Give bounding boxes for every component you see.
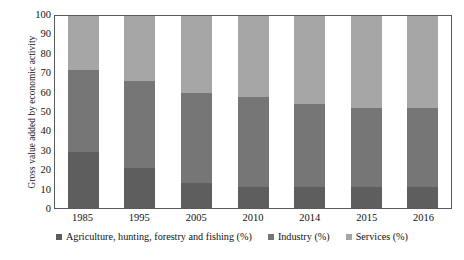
x-axis-tick-1995: 1995	[111, 210, 168, 228]
x-axis-tick-1985: 1985	[54, 210, 111, 228]
bar-slot-2010	[225, 16, 282, 208]
bar-segment[interactable]	[68, 70, 99, 153]
bar-segment[interactable]	[181, 16, 212, 93]
y-axis-tick-40: 40	[18, 126, 51, 136]
legend-label: Agriculture, hunting, forestry and fishi…	[66, 231, 252, 242]
y-axis-tick-30: 30	[18, 146, 51, 156]
stacked-bar-2005[interactable]	[181, 16, 212, 208]
y-axis-tick-50: 50	[18, 107, 51, 117]
bar-segment[interactable]	[238, 16, 269, 97]
bar-segment[interactable]	[407, 16, 438, 108]
bar-slot-2005	[168, 16, 225, 208]
legend-swatch-icon	[268, 234, 274, 240]
plot-area	[54, 15, 452, 209]
bar-slot-2016	[394, 16, 451, 208]
legend-label: Services (%)	[356, 231, 408, 242]
y-axis-tick-70: 70	[18, 68, 51, 78]
legend-swatch-icon	[56, 234, 62, 240]
bar-segment[interactable]	[407, 108, 438, 187]
bar-segment[interactable]	[181, 183, 212, 208]
bar-segment[interactable]	[294, 187, 325, 208]
legend-item-0[interactable]: Agriculture, hunting, forestry and fishi…	[56, 231, 252, 242]
bar-segment[interactable]	[124, 16, 155, 81]
x-axis-tick-2014: 2014	[281, 210, 338, 228]
bar-segment[interactable]	[238, 187, 269, 208]
bar-segment[interactable]	[294, 104, 325, 187]
bar-slot-1985	[55, 16, 112, 208]
x-axis-tick-2010: 2010	[225, 210, 282, 228]
y-axis-tick-100: 100	[18, 10, 51, 20]
stacked-bar-2010[interactable]	[238, 16, 269, 208]
stacked-bar-1995[interactable]	[124, 16, 155, 208]
stacked-bar-2016[interactable]	[407, 16, 438, 208]
stacked-bar-2015[interactable]	[351, 16, 382, 208]
bar-slot-2014	[281, 16, 338, 208]
bar-segment[interactable]	[68, 16, 99, 70]
y-axis-tick-10: 10	[18, 185, 51, 195]
bar-slot-2015	[338, 16, 395, 208]
x-axis-tick-2015: 2015	[338, 210, 395, 228]
bar-slot-1995	[112, 16, 169, 208]
stacked-bar-chart: Gross value added by economic activity 1…	[0, 0, 464, 260]
y-axis-tick-labels: 1009080706050403020100	[18, 15, 51, 209]
chart-legend: Agriculture, hunting, forestry and fishi…	[0, 231, 464, 242]
x-axis-tick-2016: 2016	[395, 210, 452, 228]
y-axis-tick-0: 0	[18, 204, 51, 214]
y-axis-tick-80: 80	[18, 49, 51, 59]
y-axis-tick-90: 90	[18, 29, 51, 39]
bar-segment[interactable]	[294, 16, 325, 104]
stacked-bar-2014[interactable]	[294, 16, 325, 208]
bar-segment[interactable]	[124, 81, 155, 167]
legend-item-1[interactable]: Industry (%)	[268, 231, 330, 242]
legend-item-2[interactable]: Services (%)	[346, 231, 408, 242]
legend-label: Industry (%)	[278, 231, 330, 242]
bar-segment[interactable]	[351, 187, 382, 208]
x-axis-tick-labels: 1985199520052010201420152016	[54, 210, 452, 228]
y-axis-tick-60: 60	[18, 88, 51, 98]
y-axis-tick-20: 20	[18, 165, 51, 175]
bar-group	[55, 16, 451, 208]
legend-swatch-icon	[346, 234, 352, 240]
bar-segment[interactable]	[124, 168, 155, 208]
bar-segment[interactable]	[181, 93, 212, 183]
stacked-bar-1985[interactable]	[68, 16, 99, 208]
bar-segment[interactable]	[407, 187, 438, 208]
bar-segment[interactable]	[351, 108, 382, 187]
bar-segment[interactable]	[68, 152, 99, 208]
bar-segment[interactable]	[351, 16, 382, 108]
x-axis-tick-2005: 2005	[168, 210, 225, 228]
bar-segment[interactable]	[238, 97, 269, 187]
